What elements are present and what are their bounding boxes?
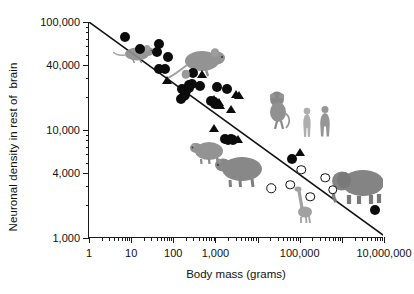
plot-canvas bbox=[89, 22, 383, 237]
x-tick-minor bbox=[241, 237, 242, 241]
data-point-triangle bbox=[197, 70, 207, 78]
x-tick-minor bbox=[298, 237, 299, 241]
y-tick-label: 4,000 bbox=[52, 167, 80, 179]
y-tick-label: 1,000 bbox=[52, 232, 80, 244]
x-tick-minor bbox=[157, 237, 158, 241]
data-point-filled-circle bbox=[120, 32, 130, 42]
y-axis-title: Neuronal density in rest of brain bbox=[0, 0, 26, 294]
x-tick-minor bbox=[377, 237, 378, 241]
x-tick-minor bbox=[114, 237, 115, 241]
x-tick-minor bbox=[333, 237, 334, 241]
x-tick-minor bbox=[290, 237, 291, 241]
x-tick-minor bbox=[211, 237, 212, 241]
x-tick-label: 10,000,000 bbox=[356, 247, 411, 259]
x-tick-major bbox=[300, 237, 301, 243]
x-tick-minor bbox=[382, 237, 383, 241]
x-tick-minor bbox=[251, 237, 252, 241]
x-tick-minor bbox=[161, 237, 162, 241]
x-tick-minor bbox=[338, 237, 339, 241]
data-point-filled-circle bbox=[135, 44, 145, 54]
x-tick-minor bbox=[129, 237, 130, 241]
x-tick-major bbox=[342, 237, 343, 243]
data-point-triangle bbox=[295, 148, 305, 156]
x-tick-minor bbox=[102, 237, 103, 241]
x-tick-minor bbox=[151, 237, 152, 241]
x-tick-minor bbox=[367, 237, 368, 241]
x-tick-major bbox=[89, 237, 90, 243]
x-tick-minor bbox=[253, 237, 254, 241]
x-tick-minor bbox=[270, 237, 271, 241]
x-tick-major bbox=[131, 237, 132, 243]
x-tick-minor bbox=[206, 237, 207, 241]
data-point-open-circle bbox=[320, 173, 330, 183]
data-point-filled-circle bbox=[163, 52, 173, 62]
x-tick-minor bbox=[296, 237, 297, 241]
x-tick-minor bbox=[278, 237, 279, 241]
x-tick-minor bbox=[325, 237, 326, 241]
x-tick-minor bbox=[340, 237, 341, 241]
giraffe-photo bbox=[292, 183, 314, 223]
x-tick-minor bbox=[109, 237, 110, 241]
x-tick-minor bbox=[209, 237, 210, 241]
x-tick-minor bbox=[203, 237, 204, 241]
x-tick-minor bbox=[256, 237, 257, 241]
x-tick-minor bbox=[125, 237, 126, 241]
data-point-gray-circle bbox=[182, 70, 191, 79]
x-tick-minor bbox=[164, 237, 165, 241]
data-point-open-circle bbox=[297, 165, 307, 175]
x-tick-major bbox=[173, 237, 174, 243]
y-tick-label: 100,000 bbox=[40, 16, 80, 28]
data-point-triangle bbox=[162, 76, 172, 84]
x-tick-minor bbox=[214, 237, 215, 241]
x-tick-minor bbox=[144, 237, 145, 241]
x-tick-label: 1 bbox=[86, 247, 92, 259]
data-point-triangle bbox=[215, 101, 225, 109]
data-point-triangle bbox=[233, 135, 243, 143]
x-tick-minor bbox=[293, 237, 294, 241]
figure-root: Neuronal density in rest of brain 1,0004… bbox=[0, 0, 414, 294]
data-point-filled-circle bbox=[195, 81, 205, 91]
x-tick-minor bbox=[287, 237, 288, 241]
data-point-open-circle bbox=[286, 180, 296, 190]
x-tick-major bbox=[258, 237, 259, 243]
x-tick-major bbox=[384, 237, 385, 243]
x-tick-minor bbox=[228, 237, 229, 241]
x-tick-minor bbox=[171, 237, 172, 241]
human-female-photo bbox=[301, 107, 314, 139]
x-tick-minor bbox=[199, 237, 200, 241]
x-tick-minor bbox=[122, 237, 123, 241]
x-tick-label: 100 bbox=[164, 247, 182, 259]
data-point-filled-circle bbox=[160, 64, 170, 74]
x-axis-title: Body mass (grams) bbox=[88, 268, 384, 280]
data-point-triangle bbox=[226, 105, 236, 113]
data-point-open-circle bbox=[266, 183, 276, 193]
x-tick-minor bbox=[312, 237, 313, 241]
x-tick-minor bbox=[186, 237, 187, 241]
x-tick-label: 1,000 bbox=[202, 247, 230, 259]
capybara-photo bbox=[214, 154, 268, 188]
x-tick-minor bbox=[127, 237, 128, 241]
x-tick-major bbox=[215, 237, 216, 243]
x-tick-minor bbox=[236, 237, 237, 241]
x-tick-minor bbox=[169, 237, 170, 241]
x-tick-minor bbox=[329, 237, 330, 241]
x-tick-minor bbox=[248, 237, 249, 241]
x-tick-minor bbox=[375, 237, 376, 241]
data-point-filled-circle bbox=[180, 90, 190, 100]
monkey-photo bbox=[265, 89, 291, 129]
x-tick-minor bbox=[355, 237, 356, 241]
x-tick-minor bbox=[283, 237, 284, 241]
x-tick-minor bbox=[335, 237, 336, 241]
x-tick-minor bbox=[245, 237, 246, 241]
y-tick-label: 40,000 bbox=[46, 59, 80, 71]
x-tick-minor bbox=[167, 237, 168, 241]
plot-area: 1,0004,00010,00040,000100,000 1101001,00… bbox=[88, 22, 383, 238]
data-point-filled-circle bbox=[152, 47, 162, 57]
data-point-triangle bbox=[234, 91, 244, 99]
data-point-open-circle bbox=[328, 185, 338, 195]
x-tick-minor bbox=[362, 237, 363, 241]
x-tick-label: 100,000 bbox=[280, 247, 320, 259]
x-tick-label: 10 bbox=[125, 247, 137, 259]
x-tick-minor bbox=[371, 237, 372, 241]
data-point-open-circle bbox=[306, 192, 316, 202]
